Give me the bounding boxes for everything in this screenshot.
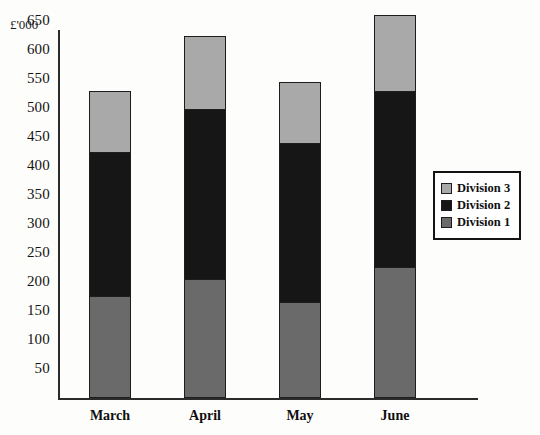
- legend-swatch-icon: [441, 200, 452, 211]
- chart-legend: Division 3Division 2Division 1: [433, 171, 521, 240]
- legend-label: Division 1: [457, 215, 510, 230]
- bar-segment-division-3[interactable]: [280, 83, 320, 144]
- bar-stack[interactable]: [279, 82, 321, 398]
- legend-label: Division 2: [457, 198, 510, 213]
- bar-segment-division-3[interactable]: [185, 37, 225, 109]
- bar-segment-division-1[interactable]: [280, 302, 320, 397]
- legend-item[interactable]: Division 2: [441, 198, 514, 213]
- bar-segment-division-2[interactable]: [375, 91, 415, 267]
- legend-swatch-icon: [441, 183, 452, 194]
- x-axis-category-label: March: [65, 408, 155, 424]
- bar-segment-division-3[interactable]: [90, 92, 130, 152]
- bar-segment-division-2[interactable]: [90, 152, 130, 296]
- bar-segment-division-2[interactable]: [185, 109, 225, 279]
- bar-segment-division-1[interactable]: [375, 267, 415, 397]
- bar-stack[interactable]: [184, 36, 226, 399]
- bar-segment-division-1[interactable]: [185, 279, 225, 397]
- bar-stack[interactable]: [89, 91, 131, 398]
- x-axis-category-label: May: [255, 408, 345, 424]
- bar-segment-division-1[interactable]: [90, 296, 130, 397]
- bar-segment-division-3[interactable]: [375, 16, 415, 91]
- x-axis-category-label: June: [350, 408, 440, 424]
- legend-label: Division 3: [457, 181, 510, 196]
- bar-stack[interactable]: [374, 15, 416, 398]
- legend-swatch-icon: [441, 217, 452, 228]
- bar-segment-division-2[interactable]: [280, 143, 320, 302]
- x-axis-category-label: April: [160, 408, 250, 424]
- legend-item[interactable]: Division 3: [441, 181, 514, 196]
- legend-item[interactable]: Division 1: [441, 215, 514, 230]
- stacked-bar-chart: £'000 5010015020025030035040045050055060…: [0, 0, 540, 435]
